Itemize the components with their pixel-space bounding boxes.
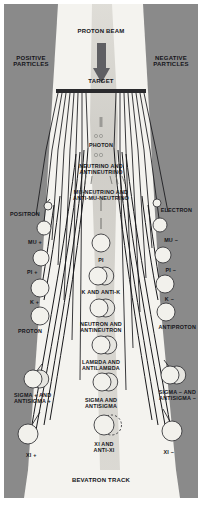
diagram-canvas: PROTON BEAM TARGET POSITIVE PARTICLES NE…	[0, 0, 202, 506]
particle-circle	[18, 424, 38, 444]
particle-circle	[162, 421, 182, 441]
particle-circle	[94, 415, 114, 435]
particle-circle	[161, 366, 179, 384]
particle-circle	[153, 199, 161, 207]
particle-circle	[90, 299, 108, 317]
particle-circle	[156, 275, 174, 293]
target-bar	[56, 89, 146, 93]
particle-circle	[89, 267, 107, 285]
particle-circle	[92, 234, 110, 252]
particle-circle	[153, 218, 167, 232]
particle-circle	[24, 370, 42, 388]
particle-circle	[155, 247, 171, 263]
particle-circle	[33, 250, 49, 266]
particle-circle	[31, 279, 49, 297]
particle-circle	[157, 303, 175, 321]
particle-circle	[31, 307, 49, 325]
particle-circle	[44, 202, 52, 210]
particle-circle	[37, 221, 51, 235]
particle-circle	[93, 373, 111, 391]
particle-circle	[92, 336, 110, 354]
bevatron-particle-diagram	[0, 0, 202, 506]
